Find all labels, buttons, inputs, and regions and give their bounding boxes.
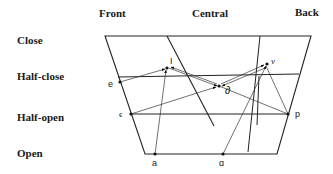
point-label-e: e [108,79,113,89]
point-label-I: I [170,56,173,66]
vowel-trapezoid-diagram: e I ∂ v ϵ p a ɑ [0,0,333,174]
trapezoid-outline [105,36,311,154]
central-left-line [167,36,214,126]
point-label-p: p [295,109,300,119]
point-label-a: a [152,158,157,168]
point-label-v: v [271,56,275,66]
point-label-epsilon: ϵ [119,110,123,119]
point-label-schwa: ∂ [225,84,231,96]
point-label-alpha: ɑ [219,158,224,168]
